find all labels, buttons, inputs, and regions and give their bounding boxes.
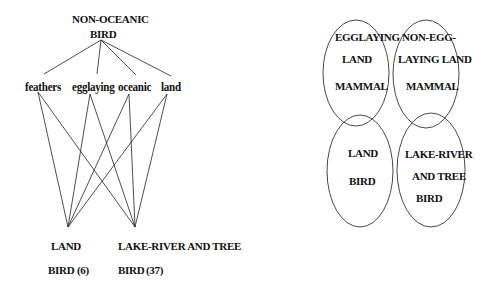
root-label-line2: BIRD — [90, 28, 116, 41]
edge-oceanic-lake — [129, 94, 135, 227]
leaf-land-bird-count: (6) — [77, 264, 89, 277]
root-label-line1: NON-OCEANIC — [72, 13, 149, 26]
ellipse-2-line3: MAMMAL — [406, 80, 459, 93]
attribute-oceanic: oceanic — [118, 80, 151, 93]
edge-root-land — [101, 40, 171, 76]
edge-egglaying-land — [68, 94, 90, 227]
ellipse-4-line2: AND TREE — [412, 170, 466, 183]
attribute-egglaying: egglaying — [72, 80, 115, 93]
attribute-feathers: feathers — [25, 80, 61, 93]
edge-root-feathers — [44, 40, 101, 74]
ellipse-4-line1: LAKE-RIVER — [405, 148, 472, 161]
leaf-lake-river-tree-line2: BIRD — [118, 264, 144, 277]
ellipse-4-line3: BIRD — [416, 192, 442, 205]
leaf-land-bird-line1: LAND — [51, 240, 81, 253]
ellipse-2-line2: LAYING LAND — [398, 53, 472, 66]
ellipse-3-line1: LAND — [348, 147, 378, 160]
edge-egglaying-lake — [90, 94, 135, 227]
edge-root-egglaying — [97, 40, 101, 74]
leaf-lake-river-tree-line1: LAKE-RIVER AND TREE — [118, 240, 241, 253]
leaf-land-bird-line2: BIRD — [48, 264, 74, 277]
ellipse-land-bird — [327, 115, 393, 227]
ellipse-1-line2: LAND — [342, 53, 372, 66]
leaf-lake-river-tree-count: (37) — [146, 264, 163, 277]
ellipse-2-line1: NON-EGG- — [402, 31, 456, 44]
attribute-land: land — [161, 80, 181, 93]
edge-land-land — [68, 94, 167, 227]
edge-root-oceanic — [101, 40, 136, 75]
ellipse-1-line1: EGGLAYING — [335, 31, 400, 44]
ellipse-1-line3: MAMMAL — [335, 80, 388, 93]
edge-land-lake — [135, 94, 167, 227]
edge-oceanic-land — [68, 94, 129, 227]
ellipse-3-line2: BIRD — [349, 175, 375, 188]
